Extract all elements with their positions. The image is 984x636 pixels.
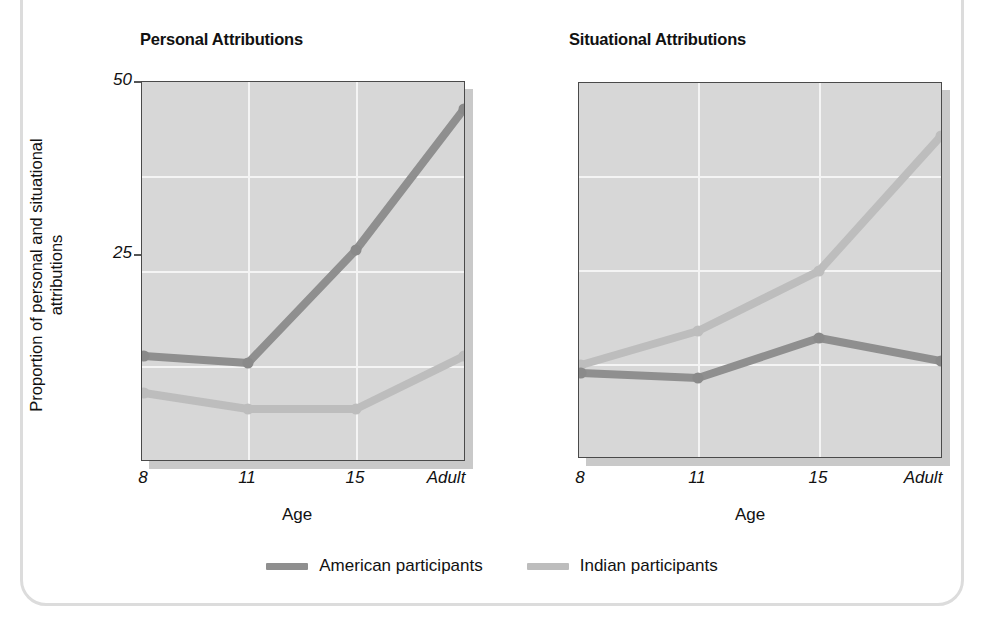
right-plot-area — [578, 82, 942, 458]
left-x-axis-label: Age — [282, 505, 312, 525]
left-line-indian — [144, 356, 464, 409]
right-x-tick-15: 15 — [798, 468, 838, 488]
y-tick-dash-50 — [134, 81, 141, 83]
legend-label-american: American participants — [319, 556, 482, 576]
y-tick-25: 25 — [88, 243, 132, 263]
legend-label-indian: Indian participants — [580, 556, 718, 576]
y-axis-label: Proportion of personal and situational a… — [26, 125, 66, 425]
left-series-svg — [142, 82, 465, 461]
right-line-indian — [581, 136, 941, 365]
legend-swatch-indian-line-icon — [527, 563, 569, 570]
right-x-tick-adult: Adult — [888, 468, 958, 488]
right-line-american — [581, 338, 941, 378]
right-point-indian-15 — [814, 266, 825, 277]
chart-legend: American participants Indian participant… — [0, 556, 984, 576]
right-x-tick-11: 11 — [677, 468, 717, 488]
left-point-american-11 — [243, 358, 254, 369]
left-chart-title: Personal Attributions — [140, 30, 303, 49]
legend-swatch-american-line-icon — [266, 563, 308, 570]
left-line-american — [144, 109, 464, 363]
left-point-indian-11 — [243, 404, 254, 415]
legend-item-indian: Indian participants — [527, 556, 718, 576]
left-x-tick-11: 11 — [227, 468, 267, 488]
y-tick-dash-25 — [134, 254, 141, 256]
right-x-tick-8: 8 — [560, 468, 600, 488]
left-plot-area — [141, 81, 465, 461]
right-point-american-15 — [814, 333, 825, 344]
legend-item-american: American participants — [266, 556, 482, 576]
right-series-svg — [579, 83, 942, 458]
right-x-axis-label: Age — [735, 505, 765, 525]
left-point-american-15 — [351, 245, 362, 256]
y-tick-50: 50 — [88, 70, 132, 90]
left-point-indian-15 — [351, 404, 362, 415]
left-x-tick-adult: Adult — [411, 468, 481, 488]
right-point-american-11 — [693, 373, 704, 384]
right-point-indian-11 — [693, 326, 704, 337]
left-x-tick-15: 15 — [335, 468, 375, 488]
left-x-tick-8: 8 — [123, 468, 163, 488]
chart-panel-personal-attributions: Personal Attributions Proportion of pers… — [0, 0, 492, 540]
right-chart-title: Situational Attributions — [569, 30, 746, 49]
chart-panel-situational-attributions: Situational Attributions 8 11 15 Adult A… — [492, 0, 984, 540]
